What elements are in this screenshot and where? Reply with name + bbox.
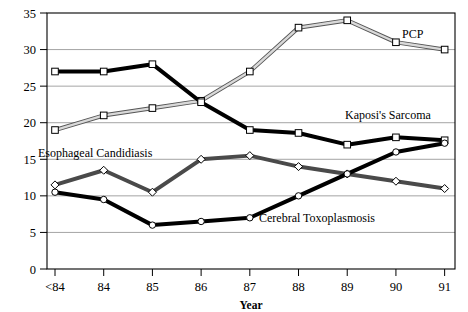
data-point-marker xyxy=(198,99,205,106)
data-point-marker xyxy=(344,141,351,148)
y-axis-tick-label: 5 xyxy=(30,226,36,240)
data-point-marker xyxy=(441,140,447,146)
x-axis-tick-label: 90 xyxy=(390,280,403,294)
x-axis-tick-label: 85 xyxy=(146,280,159,294)
data-point-marker xyxy=(393,39,400,46)
data-point-marker xyxy=(295,130,302,137)
line-chart: 05101520253035 <848485868788899091 PCPKa… xyxy=(0,0,468,312)
data-point-marker xyxy=(393,149,399,155)
x-axis-tick-label: 87 xyxy=(244,280,257,294)
series-label-esophageal-candidiasis: Esophageal Candidiasis xyxy=(38,146,153,160)
data-point-marker xyxy=(247,215,253,221)
x-axis-tick-label: 91 xyxy=(438,280,451,294)
series-label-kaposi-s-sarcoma: Kaposi's Sarcoma xyxy=(345,108,431,122)
data-point-marker xyxy=(247,68,254,75)
data-point-marker xyxy=(100,68,107,75)
y-axis-tick-label: 10 xyxy=(24,189,37,203)
x-axis-tick-label: 86 xyxy=(195,280,208,294)
data-point-marker xyxy=(149,105,156,112)
data-point-marker xyxy=(52,68,59,75)
data-point-marker xyxy=(247,127,254,134)
data-point-marker xyxy=(295,24,302,31)
x-axis-tick-label: <84 xyxy=(45,280,65,294)
y-axis-tick-label: 0 xyxy=(30,263,36,277)
data-point-marker xyxy=(344,17,351,24)
data-point-marker xyxy=(52,189,58,195)
x-axis-title: Year xyxy=(240,299,263,311)
data-point-marker xyxy=(52,127,59,134)
data-point-marker xyxy=(344,171,350,177)
data-point-marker xyxy=(149,61,156,68)
x-axis-tick-label: 89 xyxy=(341,280,354,294)
y-axis-tick-label: 35 xyxy=(24,7,37,21)
x-axis-tick-label: 88 xyxy=(292,280,305,294)
data-point-marker xyxy=(101,196,107,202)
series-label-cerebral-toxoplasmosis: Cerebral Toxoplasmosis xyxy=(259,211,375,225)
data-point-marker xyxy=(149,222,155,228)
y-axis-tick-label: 30 xyxy=(24,43,37,57)
data-point-marker xyxy=(198,218,204,224)
x-axis-tick-labels: <848485868788899091 xyxy=(45,280,451,294)
y-axis-tick-label: 15 xyxy=(24,153,37,167)
data-point-marker xyxy=(100,112,107,119)
data-point-marker xyxy=(295,193,301,199)
chart-container: 05101520253035 <848485868788899091 PCPKa… xyxy=(0,0,468,312)
series-label-pcp: PCP xyxy=(402,27,424,41)
y-axis-tick-label: 20 xyxy=(24,116,37,130)
x-axis-tick-label: 84 xyxy=(97,280,110,294)
y-axis-tick-label: 25 xyxy=(24,80,37,94)
data-point-marker xyxy=(441,46,448,53)
data-point-marker xyxy=(393,134,400,141)
